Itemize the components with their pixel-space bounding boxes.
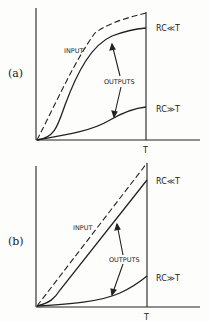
arrowhead-down-icon — [111, 289, 116, 295]
panel-b-outputs-label: OUTPUTS — [109, 256, 140, 264]
input-curve — [37, 13, 146, 140]
input-curve — [37, 163, 147, 306]
panel-a-rc-small-label: RC≪T — [156, 24, 180, 33]
panel-b-input-label: INPUT — [73, 224, 92, 232]
panel-a-label: (a) — [8, 67, 23, 80]
panel-a-t-label: T — [142, 146, 148, 155]
panel-b-rc-large-label: RC≫T — [156, 274, 180, 283]
panel-a-rc-large-label: RC≫T — [156, 105, 180, 114]
output-rc-large-curve — [37, 276, 147, 306]
panel-a-input-label: INPUT — [64, 47, 83, 55]
integrator-response-diagram: (a) INPUT OUTPUTS RC≪T RC≫T T (b) INPUT … — [0, 0, 210, 322]
output-rc-large-curve — [37, 107, 146, 140]
arrowhead-up-icon — [110, 44, 115, 50]
arrowhead-up-icon — [115, 224, 120, 230]
panel-a-outputs-label: OUTPUTS — [104, 78, 135, 86]
panel-b-label: (b) — [8, 235, 24, 248]
panel-b-rc-small-label: RC≪T — [156, 177, 180, 186]
panel-b-t-label: T — [143, 313, 149, 322]
